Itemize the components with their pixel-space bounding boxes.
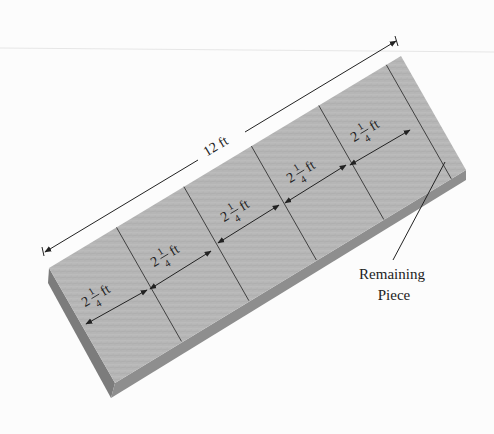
remaining-label-line2: Piece (378, 287, 411, 303)
board-diagram: 12 ft 2 1 4 ft 2 1 4 ft 2 1 4 ft (0, 0, 494, 434)
total-length-label: 12 ft (201, 133, 231, 159)
board-top-face (49, 56, 466, 383)
remaining-label-line1: Remaining (359, 266, 425, 282)
